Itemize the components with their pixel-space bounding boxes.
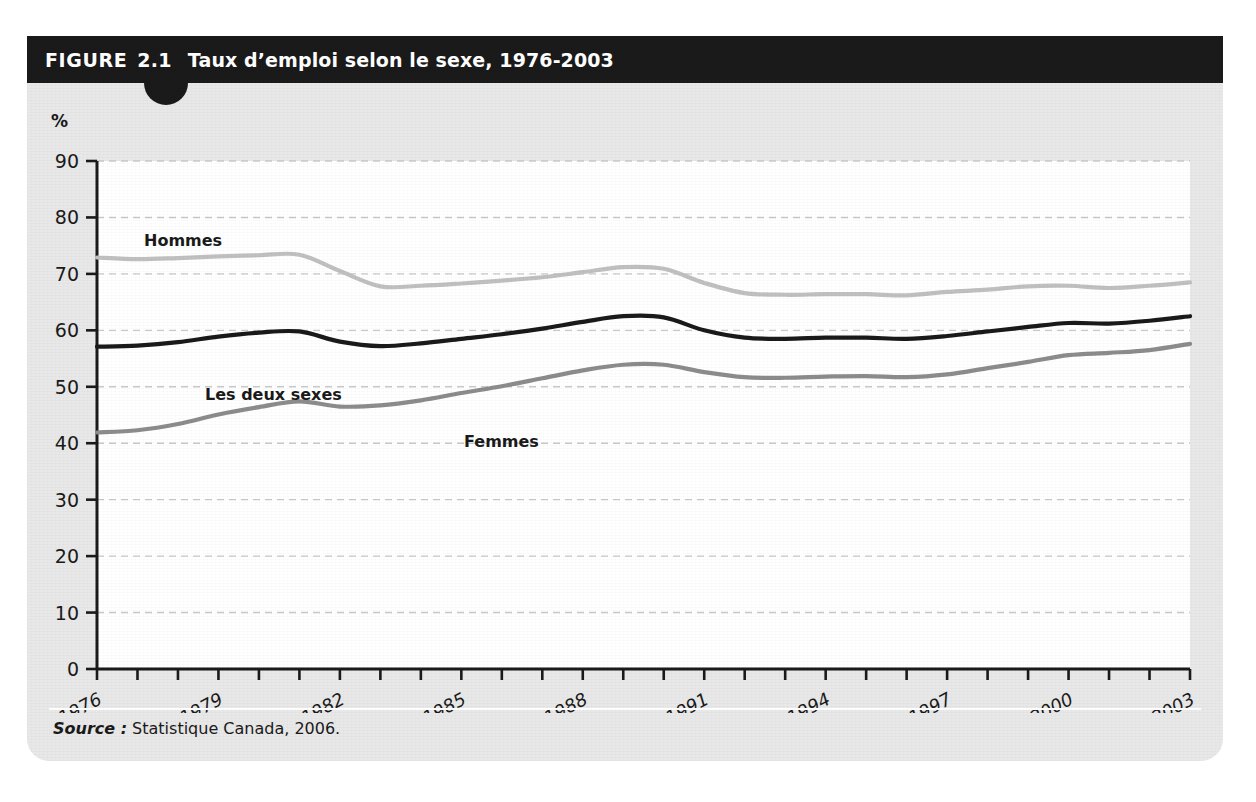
series-label-les-deux-sexes: Les deux sexes bbox=[205, 385, 342, 404]
figure-label: FIGURE bbox=[45, 49, 127, 71]
figure-container: FIGURE 2.1 Taux d’emploi selon le sexe, … bbox=[27, 36, 1223, 761]
series-label-femmes: Femmes bbox=[464, 432, 539, 451]
figure-page: FIGURE 2.1 Taux d’emploi selon le sexe, … bbox=[0, 0, 1256, 802]
y-tick-label: 80 bbox=[55, 206, 79, 228]
source-text: Statistique Canada, 2006. bbox=[132, 719, 340, 738]
chart-area: % 9080706050403020100 197619791982198519… bbox=[27, 83, 1223, 713]
source-word: Source : bbox=[53, 719, 127, 738]
y-tick-label: 60 bbox=[55, 319, 79, 341]
plot-background bbox=[97, 161, 1190, 669]
y-tick-label: 10 bbox=[55, 602, 79, 624]
y-tick-label: 30 bbox=[55, 489, 79, 511]
source-note: Source :Statistique Canada, 2006. bbox=[53, 719, 340, 738]
series-label-hommes: Hommes bbox=[144, 231, 222, 250]
figure-header-text: FIGURE 2.1 Taux d’emploi selon le sexe, … bbox=[45, 36, 614, 83]
y-tick-label: 40 bbox=[55, 432, 79, 454]
x-axis-ticks bbox=[97, 669, 1190, 680]
y-axis-ticks bbox=[86, 161, 97, 669]
y-tick-label: 50 bbox=[55, 376, 79, 398]
y-axis-tick-labels: 9080706050403020100 bbox=[55, 150, 79, 680]
employment-rate-line-chart: 9080706050403020100 19761979198219851988… bbox=[27, 83, 1223, 713]
figure-title: Taux d’emploi selon le sexe, 1976-2003 bbox=[188, 49, 614, 71]
y-tick-label: 0 bbox=[67, 658, 79, 680]
y-tick-label: 90 bbox=[55, 150, 79, 172]
y-tick-label: 20 bbox=[55, 545, 79, 567]
figure-number: 2.1 bbox=[137, 49, 172, 71]
source-divider bbox=[49, 708, 1201, 710]
y-tick-label: 70 bbox=[55, 263, 79, 285]
